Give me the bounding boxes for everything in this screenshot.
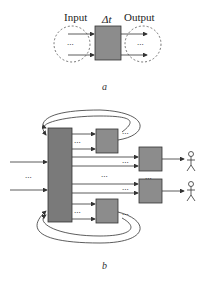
output-label: Output [124,12,155,23]
central-bar [48,128,72,222]
person-icon [187,152,195,172]
output-ellipsis: ... [137,38,144,47]
delta-t-label: Δt [102,14,112,25]
upper-output-box [139,147,162,171]
upper-small-box [96,129,118,153]
right-box-ellipsis: ... [145,172,152,181]
upper-ellipsis: ... [74,136,81,145]
lower-loop-ellipsis: ... [122,208,129,217]
delta-t-box [95,26,121,60]
upper-right-ellipsis: ... [122,156,129,165]
input-ellipsis: ... [67,38,74,47]
caption-a: a [102,82,107,92]
upper-loop-ellipsis: ... [122,127,129,136]
middle-ellipsis: ... [101,170,108,179]
person-icon [187,182,195,202]
lower-output-box [139,179,162,203]
lower-ellipsis: ... [74,206,81,215]
diagram-canvas [0,0,203,281]
lower-right-ellipsis: ... [122,183,129,192]
input-label: Input [64,12,87,23]
caption-b: b [102,261,107,271]
left-input-ellipsis: ... [25,171,32,180]
lower-small-box [96,199,118,223]
